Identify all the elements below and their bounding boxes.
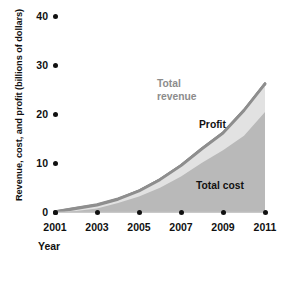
annotation-total-revenue-line1: Total	[157, 78, 181, 89]
x-tick-dot-2001	[53, 210, 58, 215]
x-tick-dot-2007	[179, 210, 184, 215]
x-tick-label-2001: 2001	[38, 221, 72, 233]
x-axis-title: Year	[38, 240, 60, 252]
x-tick-dot-2003	[95, 210, 100, 215]
chart-plot-area	[0, 0, 285, 281]
x-tick-dot-2011	[263, 210, 268, 215]
x-tick-label-2005: 2005	[122, 221, 156, 233]
x-tick-label-2007: 2007	[164, 221, 198, 233]
x-tick-dot-2009	[221, 210, 226, 215]
annotation-total-cost: Total cost	[196, 180, 244, 193]
annotation-total-revenue: Total revenue	[157, 78, 197, 103]
annotation-total-revenue-line2: revenue	[157, 91, 197, 102]
x-tick-label-2011: 2011	[248, 221, 282, 233]
x-tick-label-2003: 2003	[80, 221, 114, 233]
x-tick-dot-2005	[137, 210, 142, 215]
annotation-profit: Profit	[199, 119, 226, 132]
x-tick-label-2009: 2009	[206, 221, 240, 233]
chart-figure: Revenue, cost, and profit (billions of d…	[0, 0, 285, 281]
